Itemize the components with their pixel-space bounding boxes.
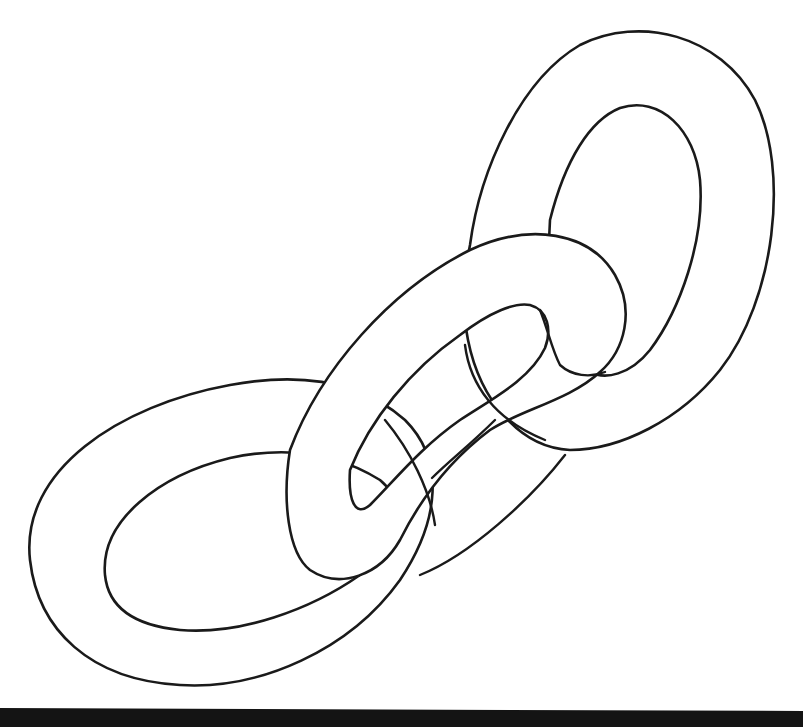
bottom-bar bbox=[0, 708, 803, 727]
chain-illustration bbox=[0, 0, 803, 727]
